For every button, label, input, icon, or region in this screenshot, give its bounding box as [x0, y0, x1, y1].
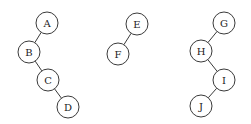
node-label: H [197, 46, 206, 57]
node-d: D [57, 96, 79, 118]
edge-c-d [55, 89, 62, 98]
edge-i-j [208, 88, 216, 98]
node-e: E [126, 13, 148, 35]
node-a: A [36, 12, 58, 34]
edge-h-i [208, 60, 217, 72]
node-label: G [220, 18, 228, 29]
node-j: J [190, 95, 212, 117]
node-label: A [42, 18, 51, 29]
node-f: F [107, 43, 129, 65]
node-b: B [18, 41, 40, 63]
edges-layer [35, 31, 217, 98]
node-g: G [213, 12, 235, 34]
tree-diagram: ABCDEFGHIJ [0, 0, 251, 124]
node-label: E [133, 19, 140, 30]
tree-g: GHIJ [190, 12, 235, 117]
edge-a-b [35, 32, 41, 42]
node-h: H [190, 40, 212, 62]
edge-e-f [124, 33, 131, 44]
node-label: B [25, 47, 32, 58]
node-label: F [115, 49, 122, 60]
node-label: J [198, 101, 203, 112]
node-label: C [44, 75, 52, 86]
nodes-layer: ABCDEFGHIJ [18, 12, 235, 118]
node-c: C [37, 69, 59, 91]
node-label: I [222, 75, 226, 86]
node-i: I [213, 69, 235, 91]
edge-b-c [35, 61, 42, 71]
edge-g-h [208, 31, 217, 42]
node-label: D [64, 102, 72, 113]
tree-a: ABCD [18, 12, 79, 118]
